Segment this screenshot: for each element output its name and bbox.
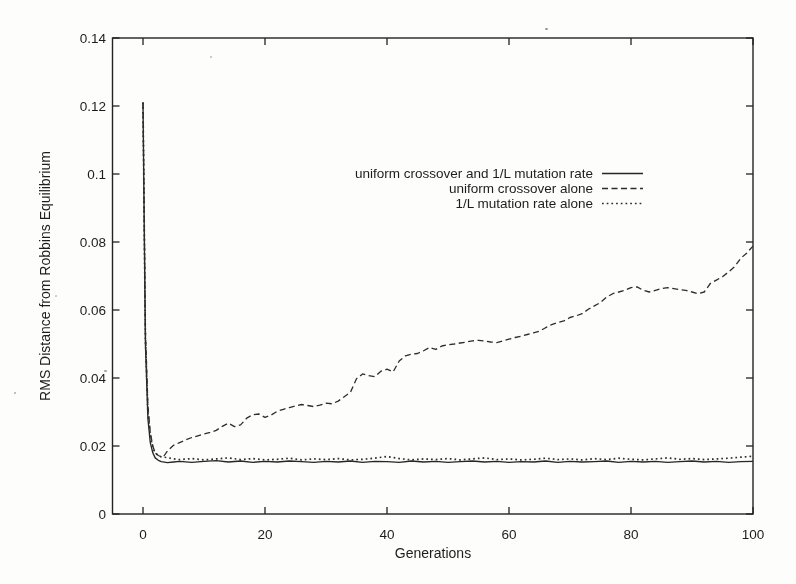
series-line-dotted [143,103,753,460]
scan-speck [14,392,16,394]
x-tick-label: 0 [139,527,147,542]
legend-label: uniform crossover and 1/L mutation rate [355,166,593,181]
plot-canvas: 02040608010000.020.040.060.080.10.120.14… [0,0,796,584]
y-tick-label: 0.08 [80,235,106,250]
x-tick-label: 40 [379,527,394,542]
x-axis-title: Generations [395,545,471,561]
x-tick-label: 80 [623,527,638,542]
x-tick-label: 20 [257,527,272,542]
x-tick-label: 100 [742,527,765,542]
y-tick-label: 0.1 [87,167,106,182]
legend-label: 1/L mutation rate alone [455,196,593,211]
chart-figure: 02040608010000.020.040.060.080.10.120.14… [0,0,796,584]
scan-speck [545,28,548,30]
legend-label: uniform crossover alone [449,181,593,196]
x-tick-label: 60 [501,527,516,542]
y-tick-label: 0.02 [80,439,106,454]
y-tick-label: 0 [98,507,106,522]
y-tick-label: 0.06 [80,303,106,318]
y-axis-title: RMS Distance from Robbins Equilibrium [37,151,53,401]
scan-speck [55,295,57,297]
scan-speck [210,56,212,58]
plot-border [113,38,754,514]
y-tick-label: 0.04 [80,371,107,386]
series-line-dashed [143,103,753,457]
legend: uniform crossover and 1/L mutation rateu… [355,166,643,211]
series-line-solid [143,103,753,463]
series-lines [143,103,753,463]
scan-speck [104,370,107,372]
y-tick-label: 0.14 [80,31,107,46]
axes: 02040608010000.020.040.060.080.10.120.14 [80,31,765,543]
y-tick-label: 0.12 [80,99,106,114]
